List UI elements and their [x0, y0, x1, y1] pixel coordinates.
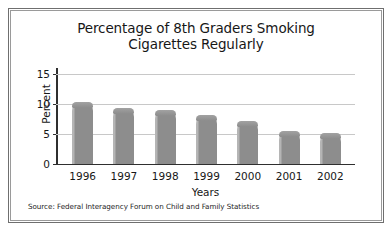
chart-title: Percentage of 8th Graders Smoking Cigare… [20, 20, 372, 52]
source-note: Source: Federal Interagency Forum on Chi… [28, 202, 259, 211]
bar-2000 [237, 121, 258, 164]
x-axis-tick-label: 2000 [234, 170, 261, 182]
y-axis-tick-label: 0 [43, 158, 50, 170]
x-axis-tick-label: 1999 [193, 170, 220, 182]
x-axis-tick-label: 1996 [69, 170, 96, 182]
plot-area: 051015 1996199719981999200020012002 [56, 68, 355, 165]
bar-1998 [155, 110, 176, 164]
x-axis-tick-label: 1997 [111, 170, 138, 182]
x-axis-tick-label: 2002 [317, 170, 344, 182]
y-axis-tick-label: 5 [43, 128, 50, 140]
bar-2001 [279, 131, 300, 164]
bar-1997 [113, 108, 134, 164]
x-axis-tick-label: 1998 [152, 170, 179, 182]
bar-2002 [320, 133, 341, 164]
y-axis-tick-label: 15 [37, 68, 50, 80]
x-axis-label: Years [56, 186, 355, 198]
y-axis-tick-label: 10 [37, 98, 50, 110]
bar-1996 [72, 102, 93, 164]
x-axis-tick-label: 2001 [276, 170, 303, 182]
chart-figure: Percentage of 8th Graders Smoking Cigare… [0, 0, 392, 231]
bar-1999 [196, 115, 217, 164]
bar-series [56, 68, 355, 165]
